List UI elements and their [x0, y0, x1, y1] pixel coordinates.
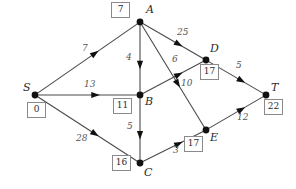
node-distance-box-S: 0: [27, 102, 46, 118]
node-distance-box-T: 22: [264, 99, 283, 115]
graph-diagram-canvas: 7132842510563512S0A7B11C16D17E17T22: [0, 0, 296, 189]
edge-weight-A-D: 25: [177, 28, 188, 37]
arrow-head-B-C: [137, 131, 143, 140]
arrow-head-A-D: [173, 39, 182, 46]
node-dot-T[interactable]: [263, 92, 270, 99]
node-distance-box-A: 7: [111, 2, 130, 18]
node-dot-E[interactable]: [203, 127, 210, 134]
node-distance-box-D: 17: [200, 64, 219, 80]
node-label-S: S: [23, 82, 31, 93]
edge-weight-E-T: 12: [237, 113, 248, 122]
node-label-A: A: [146, 4, 154, 15]
edge-weight-B-D: 6: [172, 55, 178, 64]
arrow-head-S-C: [90, 129, 99, 136]
node-dot-A[interactable]: [137, 19, 144, 26]
arrow-head-D-T: [236, 76, 245, 83]
edge-weight-A-E: 10: [181, 79, 192, 88]
node-label-C: C: [144, 167, 152, 178]
node-label-E: E: [210, 132, 218, 143]
edge-weight-C-E: 3: [173, 146, 179, 155]
arrow-head-S-A: [90, 51, 99, 59]
node-dot-C[interactable]: [137, 160, 144, 167]
node-label-D: D: [210, 43, 219, 54]
arrow-head-S-B: [91, 92, 100, 98]
edge-line-B-D: [143, 61, 203, 93]
edge-line-A-E: [142, 25, 205, 128]
node-distance-box-B: 11: [113, 98, 132, 114]
node-label-T: T: [271, 82, 278, 93]
edge-line-E-T: [209, 97, 263, 129]
edge-weight-S-C: 28: [76, 134, 87, 143]
node-dot-D[interactable]: [203, 57, 210, 64]
node-dot-B[interactable]: [137, 92, 144, 99]
edge-E-T: [209, 97, 263, 129]
edge-weight-A-B: 4: [126, 53, 132, 62]
edge-weight-S-A: 7: [82, 44, 88, 53]
edge-B-D: [143, 61, 203, 93]
arrow-head-A-E: [173, 78, 180, 87]
node-distance-box-E: 17: [184, 136, 203, 152]
edge-B-C: [137, 98, 143, 160]
edge-weight-S-B: 13: [84, 80, 95, 89]
node-distance-box-C: 16: [112, 155, 131, 171]
edge-A-B: [137, 25, 143, 92]
node-dot-S[interactable]: [32, 92, 39, 99]
edge-weight-D-T: 5: [236, 61, 242, 70]
arrow-head-A-B: [137, 61, 143, 70]
edge-A-E: [142, 25, 205, 128]
node-label-B: B: [145, 96, 153, 107]
edge-weight-B-C: 5: [127, 122, 133, 131]
